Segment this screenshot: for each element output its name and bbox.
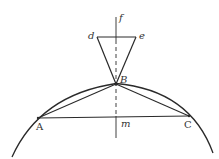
geometry-figure: f d e B A C m bbox=[0, 0, 219, 159]
label-f: f bbox=[118, 12, 125, 23]
diagram-canvas: f d e B A C m bbox=[0, 0, 219, 159]
segment-AB bbox=[38, 84, 116, 118]
label-e: e bbox=[139, 30, 145, 41]
label-m: m bbox=[121, 118, 130, 129]
label-C: C bbox=[184, 119, 192, 130]
segment-dB bbox=[97, 37, 116, 84]
point-A-dot bbox=[37, 117, 39, 119]
point-C-dot bbox=[188, 115, 190, 117]
label-A: A bbox=[35, 121, 44, 132]
segment-AC bbox=[38, 116, 189, 118]
label-d: d bbox=[88, 30, 94, 41]
segment-BC bbox=[116, 84, 189, 116]
point-B-dot bbox=[115, 83, 118, 86]
label-B: B bbox=[119, 74, 127, 85]
